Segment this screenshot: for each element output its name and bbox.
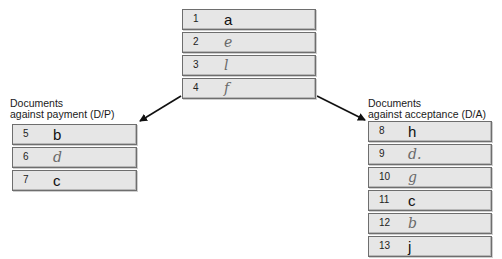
- dp-label-line2: against payment (D/P): [10, 109, 114, 120]
- row-number: 7: [23, 174, 29, 185]
- list-row: 5b: [12, 124, 137, 145]
- arrow-to-da: [317, 96, 365, 120]
- list-row: 1a: [182, 9, 316, 30]
- row-value: h: [408, 122, 416, 141]
- da-label-line2: against acceptance (D/A): [368, 109, 486, 120]
- row-number: 4: [193, 82, 199, 93]
- list-row: 8h: [368, 121, 492, 142]
- row-number: 8: [379, 125, 385, 136]
- row-value: l: [224, 56, 228, 75]
- row-value: c: [408, 191, 416, 210]
- row-number: 10: [379, 171, 390, 182]
- row-number: 11: [379, 194, 389, 205]
- row-value: e: [224, 33, 232, 52]
- row-value: b: [53, 125, 61, 144]
- arrow-to-dp: [140, 96, 181, 121]
- list-row: 3l: [182, 55, 316, 76]
- list-row: 9d.: [368, 144, 492, 165]
- row-value: a: [224, 10, 232, 29]
- list-row: 12b: [368, 213, 492, 234]
- row-number: 1: [193, 13, 199, 24]
- list-row: 7c: [12, 170, 137, 191]
- row-number: 2: [193, 36, 199, 47]
- list-row: 4f: [182, 78, 316, 99]
- da-list: 8h9d.10g11c12b13j: [368, 121, 492, 259]
- row-value: b: [408, 214, 417, 233]
- row-number: 3: [193, 59, 199, 70]
- list-row: 2e: [182, 32, 316, 53]
- dp-label: Documents against payment (D/P): [10, 98, 114, 120]
- top-list: 1a2e3l4f: [182, 9, 316, 101]
- row-value: d.: [408, 145, 421, 164]
- list-row: 10g: [368, 167, 492, 188]
- dp-list: 5b6d7c: [12, 124, 137, 193]
- row-value: d: [53, 148, 62, 167]
- da-label: Documents against acceptance (D/A): [368, 98, 486, 120]
- list-row: 6d: [12, 147, 137, 168]
- row-number: 5: [23, 128, 29, 139]
- row-value: f: [224, 79, 229, 98]
- list-row: 11c: [368, 190, 492, 211]
- row-number: 12: [379, 217, 390, 228]
- row-value: g: [408, 168, 417, 187]
- row-number: 13: [379, 240, 390, 251]
- row-number: 6: [23, 151, 29, 162]
- list-row: 13j: [368, 236, 492, 257]
- row-value: j: [408, 237, 411, 256]
- row-number: 9: [379, 148, 385, 159]
- row-value: c: [53, 171, 61, 190]
